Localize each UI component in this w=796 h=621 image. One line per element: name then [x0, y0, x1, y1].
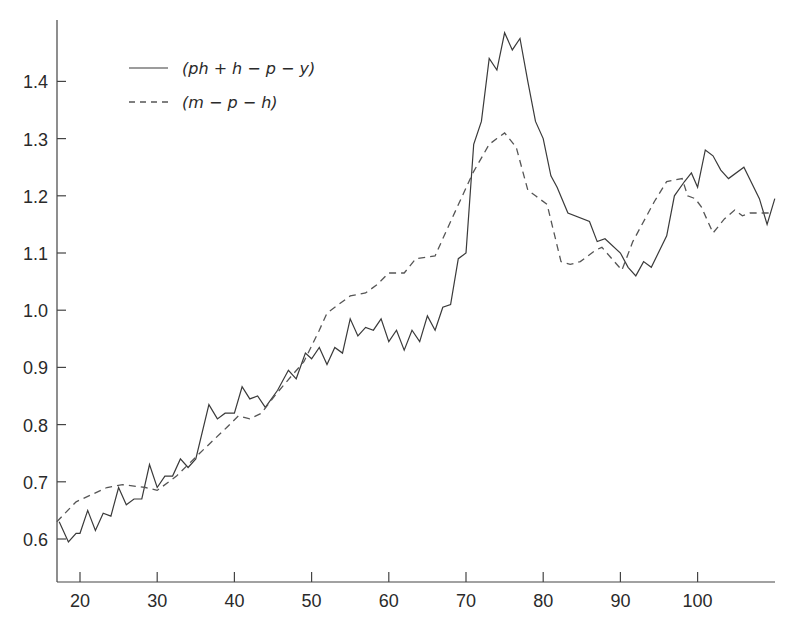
x-tick-label: 60 — [379, 591, 399, 611]
y-tick-label: 0.6 — [23, 530, 48, 550]
series-dashed-line — [57, 133, 770, 522]
y-tick-label: 1.2 — [23, 187, 48, 207]
y-tick-label: 1.0 — [23, 301, 48, 321]
y-tick-label: 1.4 — [23, 72, 48, 92]
y-tick-label: 0.7 — [23, 473, 48, 493]
legend: (ph + h − p − y) (m − p − h) — [129, 59, 315, 112]
x-axis: 2030405060708090100 — [57, 572, 775, 611]
y-tick-label: 1.3 — [23, 130, 48, 150]
x-tick-label: 30 — [147, 591, 167, 611]
x-tick-label: 20 — [70, 591, 90, 611]
y-tick-label: 1.1 — [23, 244, 48, 264]
x-tick-label: 100 — [683, 591, 713, 611]
plot-area — [57, 33, 775, 542]
x-tick-label: 40 — [224, 591, 244, 611]
x-tick-label: 80 — [533, 591, 553, 611]
legend-label: (ph + h − p − y) — [182, 59, 315, 78]
legend-item-dashed: (m − p − h) — [129, 93, 278, 112]
x-tick-label: 90 — [610, 591, 630, 611]
line-chart: 0.60.70.80.91.01.11.21.31.4 203040506070… — [0, 0, 796, 621]
y-tick-label: 0.9 — [23, 358, 48, 378]
y-axis: 0.60.70.80.91.01.11.21.31.4 — [23, 20, 66, 582]
series-solid-line — [59, 33, 775, 542]
legend-label: (m − p − h) — [182, 93, 278, 112]
x-tick-label: 70 — [456, 591, 476, 611]
y-tick-label: 0.8 — [23, 416, 48, 436]
x-tick-label: 50 — [302, 591, 322, 611]
legend-item-solid: (ph + h − p − y) — [129, 59, 315, 78]
